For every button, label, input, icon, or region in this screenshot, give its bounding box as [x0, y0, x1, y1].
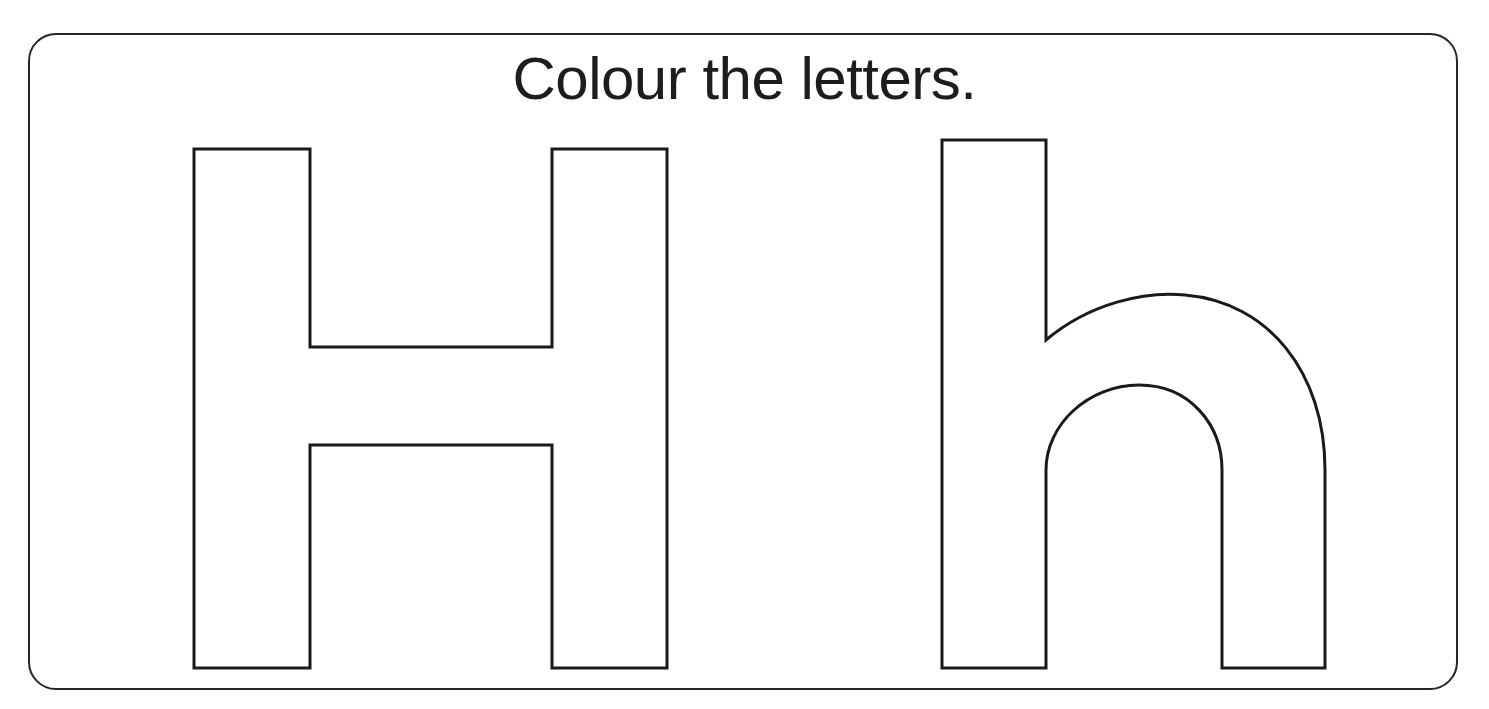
instruction-heading: Colour the letters. [0, 46, 1489, 112]
worksheet-page: Colour the letters. [0, 0, 1489, 709]
worksheet-frame [28, 33, 1458, 690]
